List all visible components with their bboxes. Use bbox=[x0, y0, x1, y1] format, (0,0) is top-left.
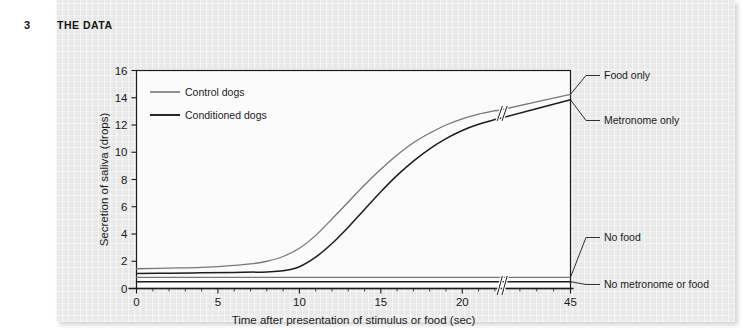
saliva-secretion-chart: 02468101214160510152045 Food onlyMetrono… bbox=[0, 0, 750, 330]
annotation-food-only: Food only bbox=[604, 69, 651, 81]
x-tick-label: 10 bbox=[293, 296, 306, 308]
annotation-metronome-only: Metronome only bbox=[604, 114, 680, 126]
y-tick-label: 6 bbox=[121, 201, 127, 213]
x-tick-label: 5 bbox=[215, 296, 221, 308]
x-tick-label: 20 bbox=[456, 296, 469, 308]
annotation-leader-lines bbox=[571, 76, 601, 285]
plot-frame bbox=[129, 71, 574, 289]
x-axis-title: Time after presentation of stimulus or f… bbox=[232, 314, 476, 326]
y-tick-label: 2 bbox=[121, 255, 127, 267]
legend-label-control-dogs: Control dogs bbox=[185, 86, 245, 98]
leader-line-no-metronome-or-food bbox=[571, 282, 601, 285]
y-axis-title: Secretion of saliva (drops) bbox=[98, 113, 110, 247]
y-tick-label: 14 bbox=[115, 92, 128, 104]
annotation-no-food: No food bbox=[604, 231, 641, 243]
x-tick-label: 45 bbox=[564, 296, 577, 308]
y-tick-label: 10 bbox=[115, 146, 128, 158]
leader-line-no-food bbox=[571, 238, 601, 278]
section-title: THE DATA bbox=[57, 20, 113, 31]
y-tick-label: 0 bbox=[121, 283, 127, 295]
leader-line-food-only bbox=[571, 76, 601, 95]
section-number: 3 bbox=[24, 20, 30, 31]
y-tick-label: 16 bbox=[115, 65, 128, 77]
legend-label-conditioned-dogs: Conditioned dogs bbox=[185, 109, 267, 121]
annotation-labels: Food onlyMetronome onlyNo foodNo metrono… bbox=[604, 69, 709, 290]
leader-line-metronome-only bbox=[571, 100, 601, 121]
chart-svg: 02468101214160510152045 Food onlyMetrono… bbox=[0, 0, 750, 330]
annotation-no-metronome-or-food: No metronome or food bbox=[604, 278, 709, 290]
y-tick-label: 8 bbox=[121, 174, 127, 186]
plot-background bbox=[137, 71, 571, 289]
y-tick-label: 12 bbox=[115, 119, 128, 131]
x-tick-label: 0 bbox=[133, 296, 139, 308]
y-tick-label: 4 bbox=[121, 228, 128, 240]
x-tick-label: 15 bbox=[374, 296, 387, 308]
